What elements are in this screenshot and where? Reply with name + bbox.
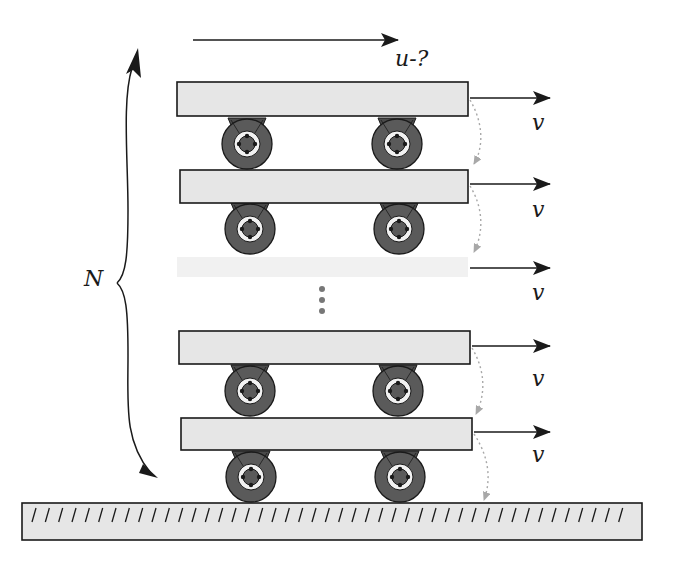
cart-3-faded [177, 257, 468, 277]
velocity-label-4: v [532, 366, 545, 391]
top-velocity-label: u-? [395, 46, 429, 71]
cart-4 [179, 331, 470, 416]
transfer-arc-4 [472, 348, 483, 414]
wheel-icon [375, 451, 425, 502]
wheel-icon [225, 203, 275, 254]
ellipsis-dots [319, 286, 325, 314]
count-label: N [83, 266, 104, 291]
velocity-label-2: v [532, 197, 545, 222]
transfer-arc-1 [470, 100, 481, 164]
wheel-icon [372, 118, 422, 169]
wheel-icon [225, 365, 275, 416]
wheel-icon [222, 118, 272, 169]
wheel-icon [226, 451, 276, 502]
stacked-carts-diagram: u-? N v v v v [0, 0, 674, 566]
transfer-arc-2 [470, 186, 481, 252]
velocity-label-1: v [532, 110, 545, 135]
transfer-arc-5 [474, 434, 488, 500]
velocity-label-5: v [532, 442, 545, 467]
cart-5 [181, 418, 472, 502]
ground [22, 503, 642, 540]
cart-2 [180, 170, 468, 254]
cart-1 [177, 82, 468, 169]
wheel-icon [374, 203, 424, 254]
count-brace [117, 48, 158, 478]
velocity-label-3: v [532, 280, 545, 305]
wheel-icon [373, 365, 423, 416]
